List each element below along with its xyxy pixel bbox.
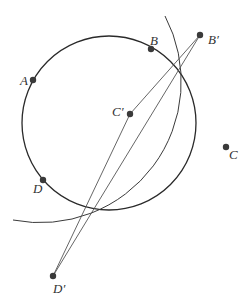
label-b: B (150, 33, 158, 48)
label-c-prime: C′ (112, 104, 124, 119)
point-d-prime (50, 273, 56, 279)
label-b-prime: B′ (208, 32, 219, 47)
label-d-prime: D′ (52, 281, 65, 296)
point-b-prime (197, 32, 203, 38)
point-a (30, 77, 36, 83)
label-d: D (32, 181, 43, 196)
geometry-diagram: ABB′C′CDD′ (0, 0, 252, 305)
label-c: C (229, 147, 238, 162)
point-c-prime (127, 111, 133, 117)
label-a: A (19, 73, 28, 88)
